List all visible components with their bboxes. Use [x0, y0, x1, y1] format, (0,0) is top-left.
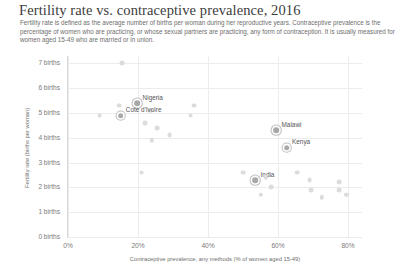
- y-axis-tick-label: 5 births: [2, 109, 60, 116]
- gridline-vertical: [278, 56, 279, 237]
- y-axis-title-text: Fertility rate (births per woman): [24, 107, 30, 187]
- data-point[interactable]: [264, 175, 268, 179]
- data-point[interactable]: [167, 133, 172, 138]
- page-title: Fertility rate vs. contraceptive prevale…: [19, 2, 301, 19]
- x-axis-tick-label: 0%: [48, 242, 88, 249]
- data-point[interactable]: [258, 193, 262, 197]
- data-point-label: Nigeria: [143, 93, 163, 100]
- x-axis-tick-label: 40%: [188, 242, 228, 249]
- gridline-horizontal: [68, 63, 362, 64]
- data-point[interactable]: [116, 103, 121, 108]
- data-point[interactable]: [320, 195, 324, 199]
- data-point-kenya[interactable]: [284, 145, 290, 151]
- data-point[interactable]: [143, 121, 148, 126]
- data-point-label: Kenya: [292, 138, 310, 145]
- gridline-horizontal: [68, 113, 362, 114]
- gridline-horizontal: [68, 237, 362, 238]
- chart-subtitle: Fertility rate is defined as the average…: [20, 19, 395, 45]
- data-point[interactable]: [269, 185, 274, 190]
- gridline-vertical: [208, 56, 209, 237]
- y-axis-tick-label: 6 births: [2, 84, 60, 91]
- data-point[interactable]: [120, 61, 125, 66]
- data-point[interactable]: [307, 178, 312, 183]
- data-point[interactable]: [309, 187, 314, 192]
- data-point[interactable]: [241, 170, 246, 175]
- data-point-label: Cote d'Ivoire: [126, 106, 162, 113]
- y-axis-tick-label: 0 births: [2, 233, 60, 240]
- data-point[interactable]: [97, 113, 102, 118]
- gridline-vertical: [68, 56, 69, 237]
- data-point[interactable]: [188, 113, 193, 118]
- data-point-cote-d-ivoire[interactable]: [118, 113, 124, 119]
- gridline-horizontal: [68, 138, 362, 139]
- data-point[interactable]: [192, 103, 197, 108]
- data-point[interactable]: [150, 138, 154, 142]
- gridline-horizontal: [68, 212, 362, 213]
- data-point[interactable]: [337, 180, 342, 185]
- gridline-vertical: [348, 56, 349, 237]
- y-axis-tick-label: 3 births: [2, 159, 60, 166]
- data-point[interactable]: [139, 170, 144, 175]
- x-axis-tick-label: 80%: [328, 242, 368, 249]
- gridline-horizontal: [68, 187, 362, 188]
- x-axis-tick-label: 60%: [258, 242, 298, 249]
- data-point[interactable]: [295, 170, 300, 175]
- data-point[interactable]: [155, 125, 160, 130]
- data-point[interactable]: [337, 187, 342, 192]
- data-point-india[interactable]: [252, 177, 258, 183]
- scatter-plot-area: NigeriaCote d'IvoireMalawiKenyaIndia: [68, 56, 362, 237]
- y-axis-tick-label: 7 births: [2, 59, 60, 66]
- y-axis-tick-label: 4 births: [2, 134, 60, 141]
- gridline-vertical: [138, 56, 139, 237]
- gridline-horizontal: [68, 163, 362, 164]
- x-axis-title: Contraceptive prevalence, any methods (%…: [68, 256, 362, 262]
- y-axis-tick-label: 2 births: [2, 183, 60, 190]
- x-axis-tick-label: 20%: [118, 242, 158, 249]
- data-point-label: Malawi: [282, 121, 302, 128]
- data-point-malawi[interactable]: [273, 128, 279, 134]
- gridline-horizontal: [68, 88, 362, 89]
- y-axis-tick-label: 1 births: [2, 208, 60, 215]
